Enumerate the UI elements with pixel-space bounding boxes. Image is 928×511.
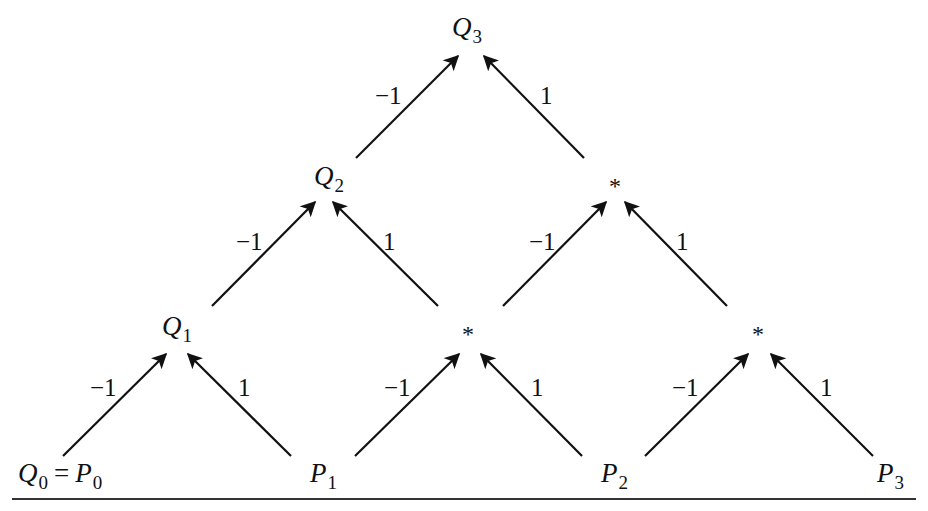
node-star-bottom-right: *: [752, 322, 764, 346]
node-q3-base: Q: [452, 12, 472, 42]
node-p1-sub: 1: [328, 472, 338, 493]
node-p3-base: P: [877, 458, 894, 488]
node-q1: Q1: [162, 313, 192, 340]
edge-q0-q1: [63, 354, 166, 456]
edge-p2-star-right: [645, 354, 748, 456]
node-q3: Q3: [452, 14, 482, 41]
label-p2-star-right: −1: [672, 375, 699, 400]
label-p3-star-right: 1: [820, 375, 833, 400]
node-q2-sub: 2: [335, 175, 345, 196]
edge-q1-q2: [212, 202, 315, 306]
node-q0-equals-p0: Q0=P0: [18, 460, 102, 487]
edge-p3-star-right: [771, 354, 873, 456]
node-star-bottom-mid: *: [462, 322, 474, 346]
node-q0-sub: 0: [39, 472, 49, 493]
node-p1-base: P: [310, 458, 327, 488]
edge-p1-q1: [188, 354, 291, 456]
label-q2-q3: −1: [375, 83, 402, 108]
label-p1-star: −1: [384, 375, 411, 400]
node-p2-sub: 2: [619, 472, 629, 493]
label-q1-q2: −1: [236, 229, 263, 254]
node-q1-base: Q: [162, 311, 182, 341]
node-p2-base: P: [601, 458, 618, 488]
diagram-edges: [0, 0, 928, 511]
label-star-star-left: −1: [529, 229, 556, 254]
node-q2-base: Q: [314, 161, 334, 191]
node-q1-sub: 1: [183, 325, 193, 346]
node-p3: P3: [877, 460, 904, 487]
label-star-q3: 1: [540, 83, 553, 108]
node-q2: Q2: [314, 163, 344, 190]
edge-p2-star: [481, 354, 582, 456]
node-p0-sub: 0: [93, 472, 103, 493]
node-q3-sub: 3: [473, 26, 483, 47]
label-p1-q1: 1: [238, 375, 251, 400]
edge-p1-star: [355, 354, 459, 456]
node-p3-sub: 3: [895, 472, 905, 493]
node-star-mid-right: *: [609, 174, 621, 198]
node-p1: P1: [310, 460, 337, 487]
equals-sign: =: [54, 458, 69, 488]
node-p2: P2: [601, 460, 628, 487]
label-star-q2: 1: [383, 229, 396, 254]
bottom-rule: [12, 498, 916, 500]
node-q0-base: Q: [18, 458, 38, 488]
label-p2-star: 1: [531, 375, 544, 400]
edge-star-q3: [484, 56, 584, 158]
label-q0-q1: −1: [90, 375, 117, 400]
label-star-star-right: 1: [676, 229, 689, 254]
edge-q2-q3: [356, 56, 458, 158]
node-p0-base: P: [75, 458, 92, 488]
